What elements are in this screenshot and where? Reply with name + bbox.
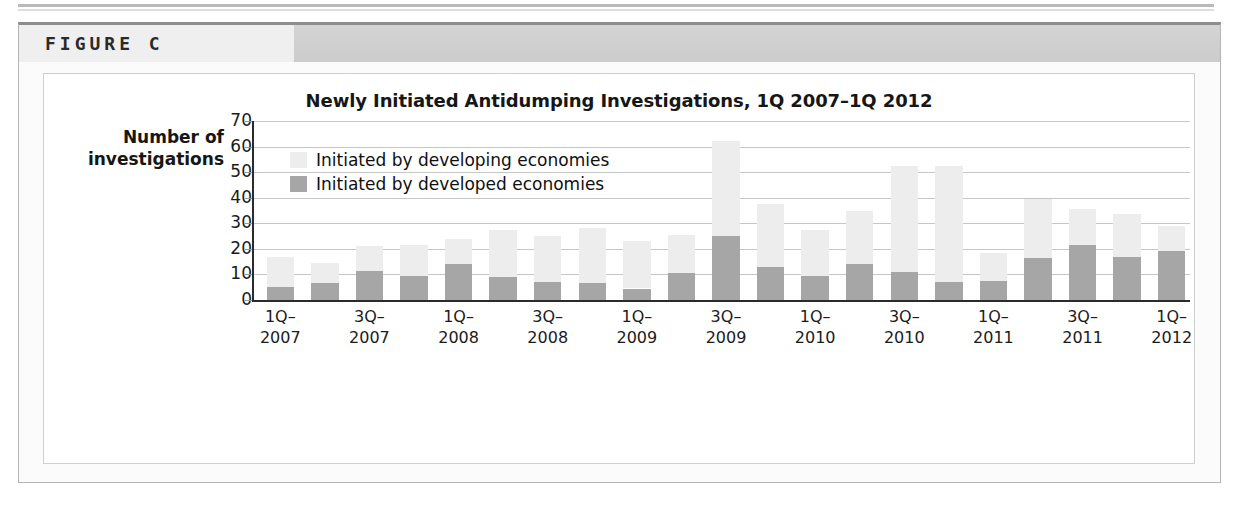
legend-label-developed: Initiated by developed economies — [316, 174, 604, 194]
bar-2Q-2010[interactable] — [846, 211, 873, 301]
y-tick-40 — [245, 198, 252, 199]
x-tick-label-quarter: 3Q– — [870, 306, 938, 327]
bar-segment-developed — [445, 264, 472, 300]
bar-segment-developing — [311, 263, 338, 283]
bar-1Q-2011[interactable] — [980, 253, 1007, 300]
figure-header-bar: FIGURE C — [19, 25, 1220, 62]
bar-segment-developing — [1113, 214, 1140, 256]
y-tick-label-70: 70 — [206, 110, 252, 130]
bar-3Q-2009[interactable] — [712, 141, 739, 300]
bar-segment-developing — [356, 246, 383, 270]
bar-segment-developed — [579, 283, 606, 300]
bar-segment-developing — [1024, 199, 1051, 258]
bar-1Q-2010[interactable] — [801, 230, 828, 300]
bar-3Q-2007[interactable] — [356, 246, 383, 300]
y-tick-label-10: 10 — [206, 263, 252, 283]
y-tick-label-50: 50 — [206, 161, 252, 181]
bar-segment-developing — [935, 166, 962, 282]
x-tick-label-1Q-2010: 1Q–2010 — [781, 306, 849, 348]
x-tick-label-quarter: 1Q– — [603, 306, 671, 327]
bar-4Q-2010[interactable] — [935, 166, 962, 300]
bar-2Q-2009[interactable] — [668, 235, 695, 300]
legend-item-developing: Initiated by developing economies — [290, 148, 609, 172]
bar-segment-developing — [623, 241, 650, 288]
bar-segment-developed — [534, 282, 561, 300]
bar-segment-developing — [980, 253, 1007, 281]
bar-2Q-2011[interactable] — [1024, 199, 1051, 300]
bar-1Q-2007[interactable] — [267, 257, 294, 300]
bar-segment-developed — [623, 289, 650, 301]
bar-segment-developed — [668, 273, 695, 300]
x-tick-label-year: 2011 — [959, 327, 1027, 348]
x-tick-label-year: 2012 — [1138, 327, 1206, 348]
x-tick-label-quarter: 3Q– — [514, 306, 582, 327]
bar-segment-developed — [489, 277, 516, 300]
bar-segment-developed — [757, 267, 784, 300]
x-tick-label-3Q-2011: 3Q–2011 — [1049, 306, 1117, 348]
bar-segment-developed — [801, 276, 828, 300]
bar-3Q-2008[interactable] — [534, 236, 561, 300]
bar-segment-developed — [1158, 251, 1185, 300]
bar-segment-developing — [757, 204, 784, 267]
x-tick-label-quarter: 1Q– — [959, 306, 1027, 327]
bar-segment-developed — [712, 236, 739, 300]
y-tick-60 — [245, 147, 252, 148]
legend-swatch-developing-icon — [290, 152, 307, 168]
x-tick-label-quarter: 3Q– — [692, 306, 760, 327]
x-tick-label-1Q-2008: 1Q–2008 — [425, 306, 493, 348]
page-rule-top-secondary — [18, 9, 1214, 11]
bar-1Q-2009[interactable] — [623, 241, 650, 300]
bar-1Q-2008[interactable] — [445, 239, 472, 300]
y-tick-label-30: 30 — [206, 212, 252, 232]
bar-segment-developed — [935, 282, 962, 300]
bar-segment-developing — [400, 245, 427, 276]
x-tick-label-year: 2007 — [335, 327, 403, 348]
bar-segment-developing — [801, 230, 828, 276]
page-rule-top — [18, 4, 1214, 7]
legend-item-developed: Initiated by developed economies — [290, 172, 609, 196]
bar-segment-developing — [579, 228, 606, 283]
bar-segment-developing — [534, 236, 561, 282]
bar-4Q-2011[interactable] — [1113, 214, 1140, 300]
bar-segment-developing — [1158, 226, 1185, 252]
figure-label: FIGURE C — [45, 33, 164, 54]
x-tick-label-quarter: 1Q– — [1138, 306, 1206, 327]
bar-segment-developed — [1024, 258, 1051, 300]
x-tick-label-year: 2007 — [246, 327, 314, 348]
bar-segment-developing — [712, 141, 739, 236]
y-tick-0 — [245, 300, 252, 301]
x-tick-label-year: 2008 — [425, 327, 493, 348]
y-axis-tick-labels: 010203040506070 — [196, 121, 252, 302]
legend-label-developing: Initiated by developing economies — [316, 150, 609, 170]
bar-segment-developing — [1069, 209, 1096, 245]
bar-4Q-2009[interactable] — [757, 204, 784, 300]
chart-legend: Initiated by developing economies Initia… — [290, 148, 609, 196]
x-tick-label-1Q-2011: 1Q–2011 — [959, 306, 1027, 348]
y-tick-20 — [245, 249, 252, 250]
x-axis-line — [252, 300, 1190, 302]
x-tick-label-1Q-2007: 1Q–2007 — [246, 306, 314, 348]
x-tick-label-year: 2009 — [692, 327, 760, 348]
y-tick-label-20: 20 — [206, 238, 252, 258]
x-tick-label-year: 2009 — [603, 327, 671, 348]
bar-segment-developed — [846, 264, 873, 300]
bar-3Q-2010[interactable] — [891, 166, 918, 300]
bar-4Q-2008[interactable] — [579, 228, 606, 300]
bar-segment-developed — [1113, 257, 1140, 300]
bar-2Q-2008[interactable] — [489, 230, 516, 300]
chart-title: Newly Initiated Antidumping Investigatio… — [44, 90, 1194, 111]
bar-2Q-2007[interactable] — [311, 263, 338, 300]
y-tick-30 — [245, 223, 252, 224]
x-tick-label-year: 2011 — [1049, 327, 1117, 348]
bar-4Q-2007[interactable] — [400, 245, 427, 300]
bar-segment-developing — [846, 211, 873, 265]
bar-3Q-2011[interactable] — [1069, 209, 1096, 300]
bar-segment-developed — [311, 283, 338, 300]
bar-segment-developed — [980, 281, 1007, 300]
x-tick-label-3Q-2009: 3Q–2009 — [692, 306, 760, 348]
bar-segment-developed — [891, 272, 918, 300]
x-tick-label-year: 2010 — [781, 327, 849, 348]
y-tick-label-40: 40 — [206, 187, 252, 207]
bar-1Q-2012[interactable] — [1158, 226, 1185, 300]
bar-segment-developing — [445, 239, 472, 265]
